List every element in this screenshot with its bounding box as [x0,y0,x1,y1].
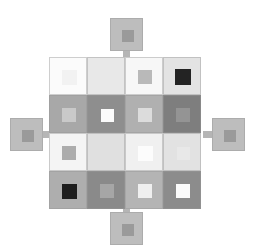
tile-r2c4-core [176,108,190,122]
tile-r4c3-core [138,184,152,198]
stub-right [203,131,212,138]
tile-r2c3[interactable] [125,95,163,133]
satellite-right-core [224,130,236,142]
tile-r4c4-core [176,184,190,198]
tile-r3c3[interactable] [125,133,163,171]
tile-r4c4[interactable] [163,171,201,209]
tile-r4c2[interactable] [87,171,125,209]
satellite-left[interactable] [10,118,43,151]
tile-r1c4-core [175,69,191,85]
satellite-top-core [122,30,134,42]
tile-r1c3-core [138,70,152,84]
tile-r4c1[interactable] [49,171,87,209]
tile-r1c2[interactable] [87,57,125,95]
tile-r1c1[interactable] [49,57,87,95]
tile-r2c2[interactable] [87,95,125,133]
tile-r3c1[interactable] [49,133,87,171]
tile-r3c2[interactable] [87,133,125,171]
tile-r3c4[interactable] [163,133,201,171]
tile-r3c4-core [177,147,190,160]
tile-r3c3-core [138,146,153,161]
diagram-canvas [0,0,257,250]
satellite-top[interactable] [110,18,143,51]
tile-r4c3[interactable] [125,171,163,209]
tile-r1c3[interactable] [125,57,163,95]
tile-r4c2-core [100,184,114,198]
satellite-left-core [22,130,34,142]
tile-r3c1-core [62,146,76,160]
tile-r2c1[interactable] [49,95,87,133]
tile-r1c4[interactable] [163,57,201,95]
tile-r2c1-core [62,108,76,122]
tile-r2c2-core [101,109,114,122]
tile-r4c1-core [62,184,77,199]
tile-r2c4[interactable] [163,95,201,133]
satellite-bottom-core [122,224,134,236]
satellite-right[interactable] [212,118,245,151]
tile-r2c3-core [138,108,152,122]
tile-r1c1-core [62,70,77,85]
satellite-bottom[interactable] [110,212,143,245]
